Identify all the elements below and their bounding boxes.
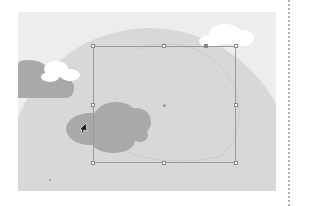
handle-top-right[interactable]: [234, 44, 238, 48]
anchor-point-selected[interactable]: [204, 44, 208, 48]
handle-middle-right[interactable]: [234, 103, 238, 107]
handle-bottom-right[interactable]: [234, 161, 238, 165]
handle-top-middle[interactable]: [162, 44, 166, 48]
handle-bottom-middle[interactable]: [162, 161, 166, 165]
handle-middle-left[interactable]: [91, 103, 95, 107]
selection-center-point: [163, 104, 166, 107]
dotted-guide-line: [288, 0, 290, 206]
canvas-speck: [49, 179, 51, 181]
handle-top-left[interactable]: [91, 44, 95, 48]
arrow-cursor-icon: [79, 122, 89, 134]
handle-bottom-left[interactable]: [91, 161, 95, 165]
